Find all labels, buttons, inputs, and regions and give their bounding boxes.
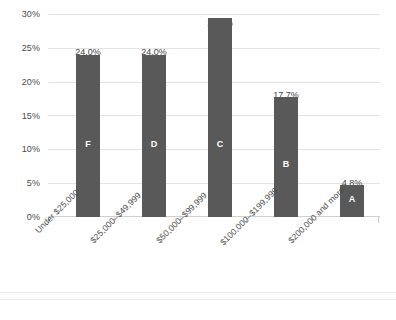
y-tick-label: 20% xyxy=(22,77,40,87)
x-tick-mark xyxy=(378,217,379,223)
bar-letter: A xyxy=(340,194,364,204)
y-tick-label: 5% xyxy=(27,178,40,188)
y-tick-label: 30% xyxy=(22,9,40,19)
y-tick-label: 15% xyxy=(22,111,40,121)
y-tick-label: 25% xyxy=(22,43,40,53)
bar: C xyxy=(208,18,232,217)
bar-letter: B xyxy=(274,159,298,169)
footer-rule xyxy=(0,299,396,300)
bar: D xyxy=(142,55,166,217)
footer-rule xyxy=(0,292,396,293)
y-axis: 30% 25% 20% 15% 10% 5% 0% xyxy=(0,14,44,217)
y-tick-label: 0% xyxy=(27,212,40,222)
gridline xyxy=(48,14,380,15)
bar-letter: D xyxy=(142,139,166,149)
bar-chart: 30% 25% 20% 15% 10% 5% 0% 24.0% F 24.0% … xyxy=(0,0,396,320)
plot-area: 24.0% F 24.0% D 29.5% C 17.7% B 4.8% A xyxy=(48,14,380,217)
bar-letter: C xyxy=(208,139,232,149)
bar-letter: F xyxy=(76,139,100,149)
y-tick-label: 10% xyxy=(22,144,40,154)
bar: B xyxy=(274,97,298,217)
